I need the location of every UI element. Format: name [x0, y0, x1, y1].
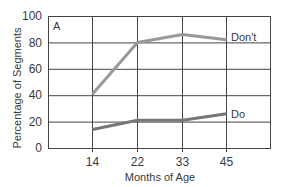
y-tick-40: 40	[29, 88, 43, 102]
y-axis-ticks: 0 20 40 60 80 100	[22, 9, 42, 155]
series-dont-line	[93, 35, 227, 94]
y-axis-label: Percentage of Segments	[11, 27, 23, 149]
x-tick-14: 14	[86, 155, 100, 169]
series-dont-label: Don't	[231, 31, 256, 43]
x-tick-22: 22	[131, 155, 145, 169]
y-tick-100: 100	[22, 9, 42, 23]
x-tick-33: 33	[176, 155, 190, 169]
y-tick-80: 80	[29, 36, 43, 50]
panel-label: A	[53, 20, 61, 32]
series-do-label: Do	[231, 108, 245, 120]
y-tick-20: 20	[29, 115, 43, 129]
y-tick-0: 0	[35, 141, 42, 155]
x-tick-45: 45	[220, 155, 234, 169]
chart: 0 20 40 60 80 100 14 22 33 45 Months of …	[0, 0, 286, 187]
x-axis-label: Months of Age	[125, 171, 195, 183]
y-tick-60: 60	[29, 62, 43, 76]
x-axis-ticks: 14 22 33 45	[86, 155, 234, 169]
